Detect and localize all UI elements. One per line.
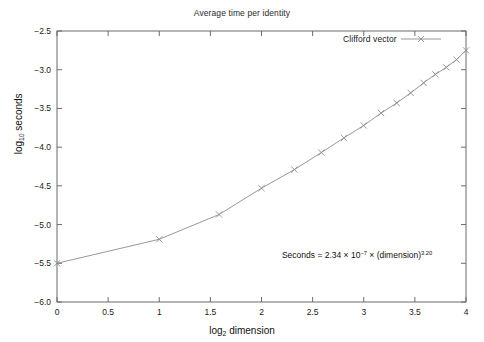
y-tick-label: −5.5 — [19, 258, 51, 268]
data-point-marker — [258, 185, 264, 191]
y-axis-title-subscript: 10 — [18, 133, 25, 141]
y-axis-title-lead: log — [13, 141, 24, 154]
fit-equation-lead: Seconds = 2.34 × 10 — [282, 250, 360, 260]
x-tick-label: 1 — [157, 307, 162, 317]
x-axis-title: log2 dimension — [0, 325, 484, 337]
y-tick-label: −2.5 — [19, 26, 51, 36]
axes-frame — [57, 31, 466, 302]
x-axis-title-lead: log — [209, 325, 222, 336]
data-point-marker — [291, 166, 297, 172]
fit-equation-power: 3.20 — [421, 250, 432, 256]
data-point-marker — [420, 80, 426, 86]
x-tick-label: 3.5 — [409, 307, 421, 317]
x-tick-label: 0.5 — [102, 307, 114, 317]
data-point-marker — [408, 90, 414, 96]
y-tick-label: −4.5 — [19, 181, 51, 191]
x-tick-label: 3 — [361, 307, 366, 317]
legend: Clifford vector — [343, 34, 441, 44]
x-axis-title-tail: dimension — [226, 325, 274, 336]
x-tick-label: 1.5 — [204, 307, 216, 317]
plot-canvas — [0, 0, 484, 342]
data-point-marker — [394, 100, 400, 106]
data-point-marker — [432, 71, 438, 77]
data-point-marker — [378, 110, 384, 116]
x-tick-label: 2 — [259, 307, 264, 317]
data-series-clifford-vector — [54, 47, 469, 266]
fit-equation-exponent-ten: −7 — [360, 250, 367, 256]
data-point-marker — [453, 57, 459, 63]
x-tick-label: 4 — [464, 307, 469, 317]
figure: Average time per identity −2.5−3.0−3.5−4… — [0, 0, 484, 342]
fit-equation-annotation: Seconds = 2.34 × 10−7 × (dimension)3.20 — [282, 250, 432, 260]
legend-label-clifford-vector: Clifford vector — [343, 34, 397, 44]
x-tick-label: 0 — [55, 307, 60, 317]
data-point-marker — [443, 64, 449, 70]
data-point-marker — [361, 122, 367, 128]
x-tick-label: 2.5 — [307, 307, 319, 317]
tick-marks — [57, 31, 466, 302]
y-axis-title-tail: seconds — [13, 93, 24, 133]
data-point-marker — [341, 135, 347, 141]
data-point-marker — [156, 236, 162, 242]
fit-equation-mid: × (dimension) — [367, 250, 421, 260]
legend-line-sample — [401, 34, 441, 44]
y-tick-label: −6.0 — [19, 297, 51, 307]
data-point-marker — [318, 149, 324, 155]
y-tick-label: −5.0 — [19, 220, 51, 230]
data-point-marker — [216, 211, 222, 217]
y-axis-title: log10 seconds — [13, 69, 25, 179]
